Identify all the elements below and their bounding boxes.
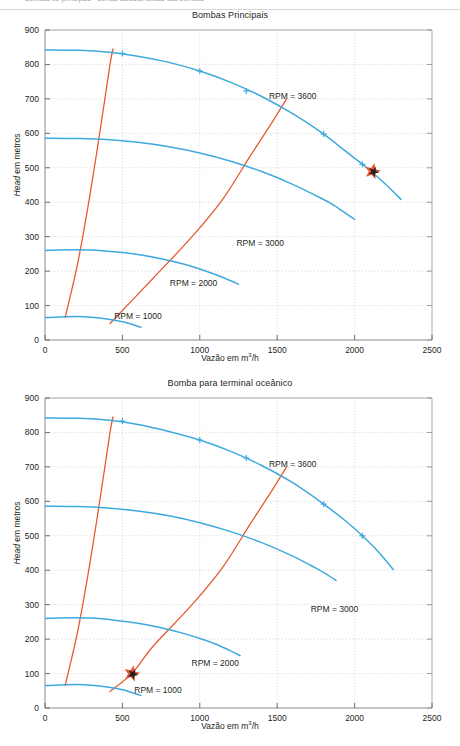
grid-group — [45, 30, 432, 340]
y-tick-label: 700 — [25, 462, 39, 472]
x-tick-label: 500 — [115, 713, 129, 723]
y-tick-label: 0 — [34, 703, 39, 713]
y-tick-label: 800 — [25, 427, 39, 437]
figure-bombas-principais: Bombas Principais Head em metros Vazão e… — [0, 10, 460, 368]
y-tick-label: 400 — [25, 565, 39, 575]
y-tick-label: 600 — [25, 496, 39, 506]
y-tick-label: 800 — [25, 59, 39, 69]
figure-page: Bombas de principais - curvas caracterís… — [0, 0, 460, 746]
series-annotation: RPM = 3600 — [269, 459, 317, 469]
y-tick-label: 200 — [25, 634, 39, 644]
y-tick-label: 300 — [25, 600, 39, 610]
rpm-curve — [45, 418, 393, 570]
annotation-group: RPM = 3600RPM = 3000RPM = 2000RPM = 1000 — [114, 91, 317, 321]
y-tick-label: 100 — [25, 301, 39, 311]
y-tick-label: 300 — [25, 232, 39, 242]
y-tick-label: 200 — [25, 266, 39, 276]
figure-bomba-terminal-oceanico: Bomba para terminal oceânico Head em met… — [0, 378, 460, 736]
y-tick-label: 600 — [25, 128, 39, 138]
y-tick-label: 0 — [34, 335, 39, 345]
rpm-curve — [45, 50, 401, 199]
x-tick-label: 2000 — [345, 713, 364, 723]
y-tick-label: 900 — [25, 25, 39, 35]
series-annotation: RPM = 2000 — [192, 658, 240, 668]
annotation-group: RPM = 3600RPM = 3000RPM = 2000RPM = 1000 — [134, 459, 358, 695]
series-annotation: RPM = 3000 — [311, 604, 359, 614]
running-head-text: Bombas de principais - curvas caracterís… — [25, 0, 204, 2]
rpm-curve — [45, 685, 141, 696]
plot-canvas: 0100200300400500600700800900050010001500… — [0, 378, 460, 736]
series-annotation: RPM = 2000 — [170, 278, 218, 288]
x-tick-label: 2500 — [423, 345, 442, 355]
series-annotation: RPM = 3000 — [236, 238, 284, 248]
plot-canvas: 0100200300400500600700800900050010001500… — [0, 10, 460, 368]
x-tick-label: 2500 — [423, 713, 442, 723]
x-tick-label: 0 — [43, 345, 48, 355]
y-tick-label: 500 — [25, 531, 39, 541]
series-group — [45, 417, 393, 696]
y-tick-label: 700 — [25, 94, 39, 104]
series-annotation: RPM = 1000 — [114, 311, 162, 321]
y-tick-label: 900 — [25, 393, 39, 403]
iso-efficiency-line — [65, 417, 113, 686]
x-tick-label: 1000 — [190, 345, 209, 355]
series-group — [45, 49, 401, 327]
y-tick-label: 100 — [25, 669, 39, 679]
x-tick-label: 2000 — [345, 345, 364, 355]
iso-efficiency-line — [110, 99, 286, 324]
x-tick-label: 500 — [115, 345, 129, 355]
y-tick-label: 500 — [25, 163, 39, 173]
x-tick-label: 1000 — [190, 713, 209, 723]
x-tick-label: 0 — [43, 713, 48, 723]
series-annotation: RPM = 1000 — [134, 685, 182, 695]
axis-frame — [45, 30, 432, 340]
iso-efficiency-line — [65, 49, 113, 318]
series-annotation: RPM = 3600 — [269, 91, 317, 101]
x-tick-label: 1500 — [268, 713, 287, 723]
rpm-curve — [45, 138, 355, 219]
x-tick-label: 1500 — [268, 345, 287, 355]
y-tick-label: 400 — [25, 197, 39, 207]
